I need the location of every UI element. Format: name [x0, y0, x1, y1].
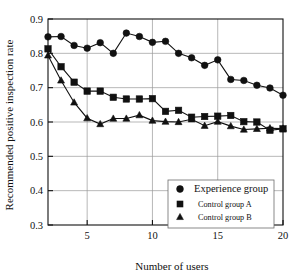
data-point — [97, 39, 104, 46]
data-point — [71, 42, 78, 49]
data-point — [241, 118, 247, 124]
data-point — [188, 54, 195, 61]
chart-figure: 0.30.40.50.60.70.80.9 5101520 Experience… — [0, 0, 296, 275]
chart-canvas: 0.30.40.50.60.70.80.9 5101520 Experience… — [0, 0, 296, 275]
data-point — [149, 95, 155, 101]
data-point — [58, 33, 65, 40]
x-tick-label: 15 — [212, 230, 223, 241]
data-point — [136, 111, 143, 117]
x-axis-title: Number of users — [135, 260, 208, 272]
y-tick-label: 0.8 — [30, 48, 43, 59]
data-point — [110, 94, 116, 100]
data-point — [241, 77, 248, 84]
legend-label: Control group A — [198, 200, 252, 209]
data-point — [136, 33, 143, 40]
data-point — [214, 57, 221, 64]
data-point — [227, 76, 234, 83]
data-point — [267, 85, 274, 92]
data-point — [149, 39, 156, 46]
data-point — [136, 96, 142, 102]
y-tick-label: 0.9 — [30, 14, 43, 25]
data-point — [45, 34, 52, 41]
series-triangle — [45, 52, 287, 132]
x-tick-label: 5 — [85, 230, 90, 241]
data-point — [280, 92, 287, 99]
data-point — [175, 107, 181, 113]
data-point — [123, 30, 130, 37]
data-point — [45, 46, 51, 52]
y-tick-label: 0.6 — [30, 117, 43, 128]
data-point — [123, 96, 129, 102]
data-point — [201, 62, 208, 69]
y-axis-title: Recommended positive inspection rate — [3, 40, 15, 211]
data-point — [84, 45, 91, 52]
chart-legend: Experience groupControl group AControl g… — [168, 180, 274, 228]
square-icon — [177, 201, 183, 207]
y-tick-label: 0.3 — [30, 220, 43, 231]
data-point — [110, 50, 117, 57]
data-point — [162, 38, 169, 45]
data-point — [71, 79, 77, 85]
data-point — [58, 64, 64, 70]
data-point — [71, 99, 78, 105]
data-point — [175, 50, 182, 57]
x-tick-label: 20 — [278, 230, 289, 241]
data-point — [58, 77, 65, 83]
data-point — [162, 108, 168, 114]
circle-icon — [177, 186, 184, 193]
series-circle — [45, 30, 287, 99]
data-point — [97, 88, 103, 94]
data-point — [254, 119, 260, 125]
data-point — [228, 112, 234, 118]
y-tick-label: 0.4 — [30, 185, 44, 196]
x-tick-label: 10 — [147, 230, 158, 241]
legend-label: Control group B — [198, 213, 252, 222]
data-point — [201, 113, 207, 119]
legend-label: Experience group — [194, 183, 268, 194]
y-tick-label: 0.7 — [30, 82, 43, 93]
y-tick-label: 0.5 — [30, 151, 43, 162]
data-point — [84, 88, 90, 94]
data-point — [254, 82, 261, 89]
data-series — [45, 30, 287, 134]
